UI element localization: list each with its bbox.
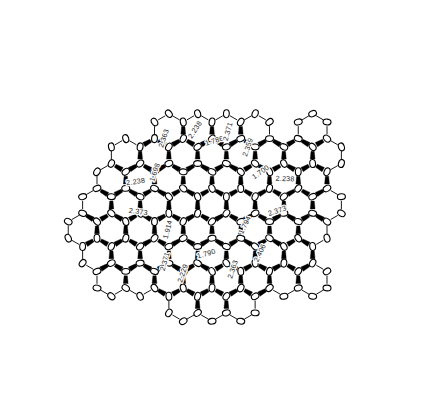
bond — [85, 239, 94, 246]
atom-ellipsoid — [338, 159, 346, 168]
bond-thin — [129, 141, 136, 145]
atom-ellipsoid — [78, 193, 87, 201]
bond — [224, 201, 229, 209]
atom-ellipsoid — [208, 235, 217, 242]
atom-ellipsoid — [166, 209, 172, 217]
atom-ellipsoid — [223, 110, 229, 118]
bond — [100, 239, 109, 246]
bond — [171, 189, 180, 196]
bond — [152, 226, 157, 234]
distance-label-text: 1.914 — [161, 219, 175, 240]
bond — [114, 164, 123, 171]
atom-ellipsoid — [180, 118, 187, 127]
atom-ellipsoid — [108, 142, 115, 151]
atom-ellipsoid — [194, 109, 202, 118]
atom-ellipsoid — [193, 308, 203, 318]
bond — [181, 226, 186, 234]
bond — [272, 264, 281, 271]
distance-label: 2.2382.238 — [126, 176, 146, 188]
bond — [95, 226, 100, 234]
bond — [200, 289, 209, 296]
bond-thin — [302, 116, 309, 120]
atom-ellipsoid — [294, 118, 303, 126]
bond — [123, 226, 128, 234]
bond — [224, 251, 229, 259]
atom-ellipsoid — [107, 193, 116, 200]
bond — [181, 176, 186, 184]
atom-ellipsoid — [222, 309, 231, 317]
bond — [186, 139, 195, 146]
distance-label: 2.3732.373 — [128, 206, 148, 218]
bond — [210, 176, 215, 184]
bond-thin — [244, 315, 251, 319]
atom-ellipsoid — [94, 234, 100, 242]
bond — [296, 276, 301, 284]
bond-thin — [86, 265, 93, 269]
atom-ellipsoid — [308, 210, 317, 217]
bond-thin — [331, 166, 338, 170]
bond — [166, 201, 171, 209]
atom-ellipsoid — [308, 109, 318, 118]
bond — [286, 239, 295, 246]
atom-ellipsoid — [309, 159, 316, 168]
atom-ellipsoid — [237, 267, 244, 276]
atom-ellipsoid — [179, 168, 188, 175]
bond — [181, 126, 186, 134]
bond — [215, 164, 224, 171]
bond — [229, 189, 238, 196]
atom-ellipsoid — [337, 142, 345, 152]
distance-label-text: 2.371 — [221, 121, 235, 142]
distance-label: 1.9141.914 — [161, 219, 175, 240]
atom-ellipsoid — [194, 209, 202, 218]
atom-ellipsoid — [323, 119, 331, 125]
distance-label-text: 2.238 — [275, 174, 294, 184]
atom-ellipsoid — [308, 293, 317, 300]
atom-ellipsoid — [136, 291, 145, 301]
distance-label-text: 1.698 — [147, 162, 161, 183]
bond — [258, 189, 267, 196]
bond — [258, 264, 267, 271]
atom-ellipsoid — [80, 242, 86, 250]
bond-thin — [187, 116, 194, 120]
bond — [129, 239, 138, 246]
bond — [253, 201, 258, 209]
bond — [238, 126, 243, 134]
bond — [296, 176, 301, 184]
atom-ellipsoid — [322, 267, 332, 276]
bond-thin — [187, 315, 194, 319]
atom-ellipsoid — [294, 284, 303, 292]
bond — [123, 276, 128, 284]
bond — [287, 264, 296, 271]
bond-thin — [72, 215, 79, 219]
atom-ellipsoid — [222, 143, 231, 151]
atom-ellipsoid — [251, 109, 260, 119]
bond-thin — [216, 116, 223, 120]
bond — [281, 251, 286, 259]
atom-ellipsoid — [336, 209, 346, 218]
bond — [301, 239, 310, 246]
atom-ellipsoid — [309, 242, 316, 251]
bond — [215, 289, 224, 296]
atom-ellipsoid — [122, 234, 130, 243]
distance-label: 2.2382.238 — [275, 174, 294, 184]
atom-ellipsoid — [337, 194, 345, 200]
atom-ellipsoid — [78, 209, 88, 217]
bond — [201, 214, 210, 221]
bond — [272, 189, 281, 196]
atom-ellipsoid — [266, 184, 274, 193]
distance-label: 2.2382.238 — [186, 119, 204, 140]
bond — [296, 226, 301, 234]
atom-ellipsoid — [236, 117, 245, 127]
bond — [171, 289, 180, 296]
bond — [224, 151, 229, 159]
atom-ellipsoid — [92, 284, 101, 291]
distance-label-text: 2.238 — [126, 176, 146, 188]
atom-ellipsoid — [237, 184, 244, 193]
bond — [272, 164, 281, 171]
bond — [310, 201, 315, 209]
figure-canvas: 2.2382.2382.3632.3631.7861.7862.3712.371… — [0, 0, 424, 412]
bond — [143, 139, 152, 146]
bond-thin — [316, 116, 323, 120]
bond — [244, 189, 253, 196]
bond — [310, 151, 315, 159]
